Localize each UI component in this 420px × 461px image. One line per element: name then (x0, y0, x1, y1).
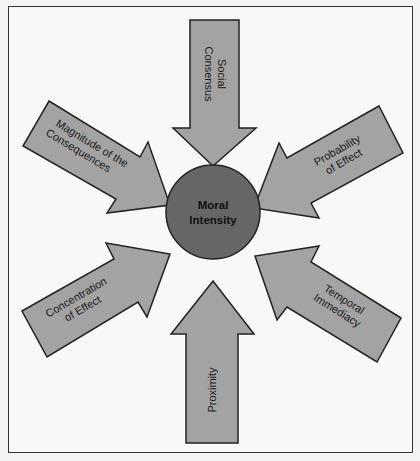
moral-intensity-circle (166, 165, 260, 259)
center-label-line2: Intensity (189, 214, 237, 226)
center-label-line1: Moral (198, 199, 229, 211)
label-proximity: Proximity (206, 367, 218, 413)
moral-intensity-diagram: Moral Intensity Social Consensus Proximi… (0, 0, 420, 461)
arrow-proximity (171, 281, 254, 443)
label-social-consensus-2: Consensus (203, 46, 215, 102)
label-social-consensus-1: Social (216, 59, 228, 89)
